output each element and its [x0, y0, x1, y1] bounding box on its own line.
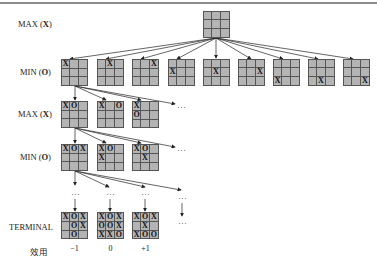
board-cell	[70, 154, 78, 162]
board-cell	[169, 77, 177, 85]
board-cell	[344, 60, 352, 68]
board-cell	[326, 60, 334, 68]
board-cell	[62, 77, 70, 85]
board-cell	[221, 77, 229, 85]
board-cell	[326, 68, 334, 76]
board-cell	[141, 120, 149, 127]
board-cell: X	[212, 68, 220, 77]
board-cell: X	[79, 222, 87, 231]
board-cell: O	[115, 102, 123, 111]
tree-edges	[0, 0, 377, 265]
board-cell	[309, 60, 317, 68]
board-cell	[79, 111, 87, 119]
board-cell	[79, 162, 87, 170]
board-cell	[62, 162, 70, 170]
board-cell: O	[141, 231, 149, 239]
board-cell	[62, 231, 70, 239]
board-cell: X	[133, 145, 141, 154]
board-cell	[177, 77, 185, 85]
board-cell	[274, 60, 282, 68]
board-cell	[204, 68, 212, 77]
ellipsis: ···	[177, 145, 186, 155]
board-cell	[204, 60, 212, 68]
board-min-level: X	[343, 59, 370, 86]
board-cell: X	[150, 60, 158, 69]
board-min-level: X	[273, 59, 300, 86]
board-min-level: X	[308, 59, 335, 86]
board-max-level: XO	[61, 101, 88, 128]
board-cell: O	[70, 145, 78, 154]
board-cell	[150, 163, 158, 170]
board-cell	[150, 102, 158, 111]
board-cell	[212, 20, 220, 28]
board-cell: O	[70, 102, 78, 111]
board-max-level: XO	[132, 101, 159, 128]
board-cell	[212, 12, 220, 20]
board-cell	[239, 68, 247, 77]
board-cell	[186, 68, 194, 77]
board-cell: O	[133, 111, 141, 120]
board-cell	[204, 29, 212, 37]
board-cell	[79, 60, 87, 69]
board-min-level: X	[238, 59, 265, 86]
board-cell	[177, 68, 185, 77]
level-label-min: MIN (O)	[20, 152, 51, 162]
board-cell	[115, 77, 123, 85]
board-cell	[326, 77, 334, 85]
board-cell	[115, 111, 123, 119]
board-cell: X	[361, 77, 369, 85]
board-cell	[317, 60, 325, 68]
board-cell	[106, 111, 114, 119]
board-cell	[70, 162, 78, 170]
board-cell: X	[98, 231, 106, 239]
board-cell	[352, 77, 360, 85]
board-cell	[221, 12, 229, 20]
board-cell	[239, 60, 247, 68]
board-cell	[70, 60, 78, 69]
board-cell	[133, 60, 141, 69]
board-cell: X	[79, 145, 87, 154]
board-cell: X	[133, 213, 141, 222]
board-cell: X	[62, 60, 70, 69]
board-cell	[291, 60, 299, 68]
board-cell	[221, 60, 229, 68]
board-cell	[247, 77, 255, 85]
board-min-level: X	[168, 59, 195, 86]
level-label-utility: 效用	[30, 245, 48, 257]
board-cell	[115, 69, 123, 77]
board-cell	[204, 20, 212, 28]
board-cell	[70, 111, 78, 119]
board-cell	[115, 163, 123, 170]
board-cell	[106, 163, 114, 170]
board-cell: X	[62, 102, 70, 111]
board-terminal: XOXOXO	[61, 212, 88, 239]
board-cell: X	[150, 213, 158, 222]
board-cell: X	[106, 231, 114, 239]
board-cell	[133, 154, 141, 163]
board-root	[203, 11, 230, 38]
board-cell	[106, 119, 114, 127]
board-cell	[221, 68, 229, 77]
board-cell	[282, 68, 290, 76]
board-cell: X	[133, 231, 141, 239]
board-cell	[150, 120, 158, 127]
board-cell	[62, 222, 70, 231]
utility-value: 0	[97, 244, 124, 253]
board-cell	[247, 68, 255, 77]
board-cell	[352, 68, 360, 76]
board-cell	[98, 77, 106, 85]
board-cell	[291, 68, 299, 76]
board-cell	[256, 77, 264, 85]
utility-value: +1	[132, 244, 159, 253]
board-cell	[133, 163, 141, 170]
board-cell	[282, 60, 290, 68]
board-cell	[344, 77, 352, 85]
board-cell	[115, 119, 123, 127]
board-cell	[62, 69, 70, 77]
board-cell	[204, 77, 212, 85]
board-cell	[186, 77, 194, 85]
board-cell: X	[141, 154, 149, 163]
board-cell: X	[98, 154, 106, 163]
board-cell	[291, 77, 299, 85]
ellipsis: ···	[71, 189, 80, 199]
